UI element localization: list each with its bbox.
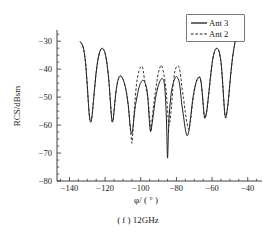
figure-container: −80−70−60−50−40−30 −140−120−100−80−60−40… <box>0 0 276 239</box>
y-axis-ticks <box>57 34 61 181</box>
figure-caption: ( f ) 12GHz <box>117 215 159 225</box>
legend-label-ant-3: Ant 3 <box>209 18 228 28</box>
y-axis-title: RCS/dBsm <box>12 86 22 127</box>
x-axis-tick-labels: −140−120−100−80−60−40 <box>61 183 255 193</box>
plot-axes <box>57 30 262 181</box>
x-tick-label: −120 <box>96 183 114 193</box>
legend-label-ant-2: Ant 2 <box>209 29 228 39</box>
x-axis-title: φ/ ( ° ) <box>134 195 158 205</box>
x-tick-label: −40 <box>241 183 254 193</box>
series-line-ant-3 <box>80 41 235 158</box>
x-tick-label: −140 <box>61 183 79 193</box>
x-tick-label: −100 <box>132 183 150 193</box>
y-tick-label: −60 <box>39 120 52 130</box>
x-tick-label: −80 <box>170 183 183 193</box>
y-tick-label: −80 <box>39 176 52 186</box>
y-tick-label: −30 <box>39 36 52 46</box>
y-tick-label: −50 <box>39 92 52 102</box>
y-tick-label: −40 <box>39 64 52 74</box>
x-axis-ticks <box>61 177 257 181</box>
series-line-ant-2 <box>80 41 235 143</box>
x-tick-label: −60 <box>205 183 218 193</box>
data-series-group <box>80 41 235 158</box>
y-tick-label: −70 <box>39 148 52 158</box>
y-axis-tick-labels: −80−70−60−50−40−30 <box>39 36 52 186</box>
legend: Ant 3 Ant 2 <box>187 15 245 42</box>
rcs-line-chart: −80−70−60−50−40−30 −140−120−100−80−60−40… <box>0 0 276 239</box>
